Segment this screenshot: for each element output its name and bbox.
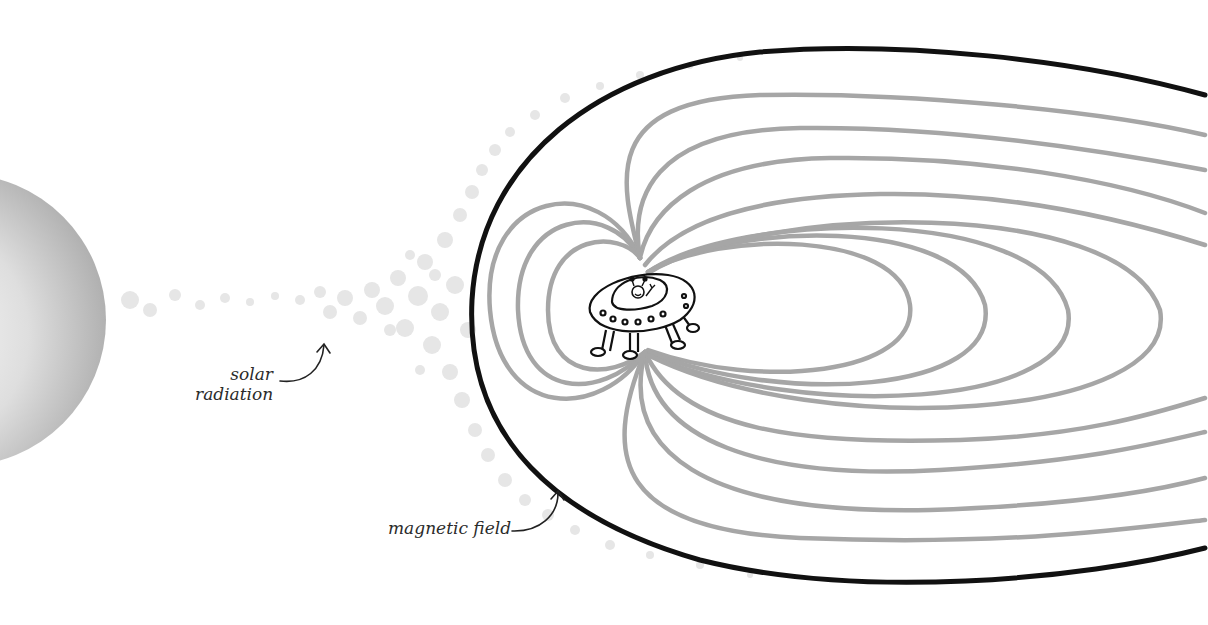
solar-radiation-label-line1: solar (195, 364, 273, 384)
solar-radiation-label-line2: radiation (195, 384, 273, 404)
solar-radiation-arrow-icon (280, 344, 330, 381)
solar-radiation-label: solar radiation (195, 364, 273, 404)
magnetic-field-label: magnetic field (388, 518, 511, 538)
magnetosphere-diagram (0, 0, 1208, 625)
ufo-alien-icon (590, 274, 699, 359)
magnetic-field-arrow-icon (512, 491, 564, 531)
sun-icon (0, 174, 106, 466)
